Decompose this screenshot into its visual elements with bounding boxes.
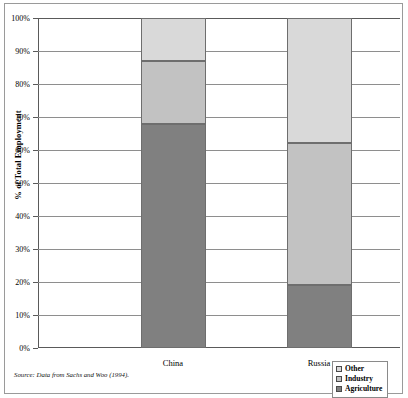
bar-segment-industry bbox=[141, 61, 206, 124]
bar-segment-other bbox=[141, 18, 206, 61]
source-note: Source: Data from Sachs and Woo (1994). bbox=[14, 371, 129, 378]
legend-label: Agriculture bbox=[345, 384, 382, 394]
plot-area: 0%10%20%30%40%50%60%70%80%90%100% ChinaR… bbox=[38, 18, 400, 348]
y-axis-tick-label: 20% bbox=[15, 278, 30, 287]
y-axis-tick bbox=[33, 348, 38, 349]
legend-item-agriculture: Agriculture bbox=[336, 384, 382, 394]
y-axis-tick bbox=[33, 315, 38, 316]
y-axis-tick bbox=[33, 216, 38, 217]
legend-swatch-icon bbox=[336, 366, 342, 372]
legend: OtherIndustryAgriculture bbox=[332, 361, 388, 398]
legend-swatch-icon bbox=[336, 386, 342, 392]
y-axis-tick-label: 80% bbox=[15, 80, 30, 89]
legend-item-other: Other bbox=[336, 364, 382, 374]
y-axis-tick bbox=[33, 117, 38, 118]
bar-segment-other bbox=[287, 18, 352, 143]
bar-russia bbox=[287, 18, 352, 348]
bar-segment-agriculture bbox=[141, 124, 206, 348]
bar-segment-agriculture bbox=[287, 285, 352, 348]
x-axis-label-china: China bbox=[163, 358, 183, 368]
y-axis-tick-label: 40% bbox=[15, 212, 30, 221]
bar-china bbox=[141, 18, 206, 348]
x-axis-label-russia: Russia bbox=[308, 358, 331, 368]
figure-stacked-bar-chart: % of Total Employment 0%10%20%30%40%50%6… bbox=[0, 0, 408, 398]
y-axis-tick-label: 70% bbox=[15, 113, 30, 122]
y-axis-tick-label: 100% bbox=[11, 14, 30, 23]
legend-label: Industry bbox=[345, 374, 373, 384]
y-axis-tick bbox=[33, 18, 38, 19]
y-axis-tick-label: 60% bbox=[15, 146, 30, 155]
legend-label: Other bbox=[345, 364, 364, 374]
y-axis-tick-label: 0% bbox=[19, 344, 30, 353]
y-axis-tick bbox=[33, 183, 38, 184]
y-axis-tick bbox=[33, 249, 38, 250]
y-axis-tick-label: 10% bbox=[15, 311, 30, 320]
y-axis-tick-label: 30% bbox=[15, 245, 30, 254]
y-axis-tick-label: 90% bbox=[15, 47, 30, 56]
y-axis-tick bbox=[33, 51, 38, 52]
y-axis-tick-label: 50% bbox=[15, 179, 30, 188]
y-axis-tick bbox=[33, 282, 38, 283]
bar-segment-industry bbox=[287, 143, 352, 285]
legend-item-industry: Industry bbox=[336, 374, 382, 384]
y-axis-tick bbox=[33, 84, 38, 85]
y-axis-tick bbox=[33, 150, 38, 151]
legend-swatch-icon bbox=[336, 376, 342, 382]
